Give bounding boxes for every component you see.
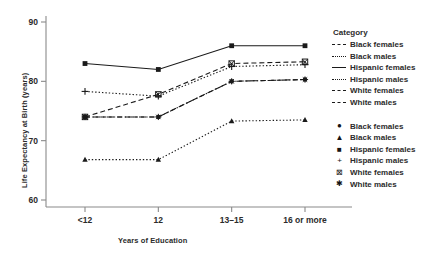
legend-marker-swatch-icon: ● — [332, 121, 347, 133]
legend-line-label: White males — [350, 97, 397, 109]
legend-line-swatch-icon — [332, 74, 347, 86]
tick-label-group: 60708090<121213–1516 or more — [29, 17, 327, 225]
series-black-females — [83, 77, 308, 119]
legend-line-label: Hispanic females — [350, 62, 415, 74]
legend-line-swatch-icon — [332, 39, 347, 51]
legend-marker-item[interactable]: ⊠White females — [332, 167, 433, 179]
legend-marker-label: Hispanic females — [350, 144, 415, 156]
legend-line-swatch-icon — [332, 97, 347, 109]
legend-marker-label: Hispanic males — [350, 155, 408, 167]
legend-line-label: Hispanic males — [350, 74, 408, 86]
series-black-males — [82, 117, 307, 162]
legend-marker-item[interactable]: ▲Black males — [332, 132, 433, 144]
legend-marker-label: Black males — [350, 132, 396, 144]
legend-line-label: Black males — [350, 51, 396, 63]
legend-line-item[interactable]: White females — [332, 85, 433, 97]
legend-line-swatch-icon — [332, 62, 347, 74]
legend-line-label: Black females — [350, 39, 403, 51]
legend-title: Category — [333, 28, 433, 37]
legend-marker-item[interactable]: ●Black females — [332, 121, 433, 133]
data-series-group — [82, 43, 309, 162]
y-tick-label: 80 — [29, 76, 39, 86]
series-white-males — [82, 76, 308, 120]
legend-line-item[interactable]: Hispanic males — [332, 74, 433, 86]
legend-line-item[interactable]: White males — [332, 97, 433, 109]
y-tick-label: 60 — [29, 195, 39, 205]
x-tick-label: 16 or more — [283, 215, 327, 225]
legend-marker-swatch-icon: ⊠ — [332, 167, 347, 179]
legend-line-styles: Black femalesBlack malesHispanic females… — [332, 39, 433, 109]
legend-marker-swatch-icon: ■ — [332, 144, 347, 156]
x-tick-label: <12 — [78, 215, 93, 225]
y-axis-title: Life Expectancy at Birth (years) — [20, 73, 29, 188]
legend-marker-item[interactable]: ■Hispanic females — [332, 144, 433, 156]
legend-marker-item[interactable]: +Hispanic males — [332, 155, 433, 167]
x-tick-label: 13–15 — [220, 215, 244, 225]
legend-marker-label: Black females — [350, 121, 403, 133]
legend-marker-swatch-icon: ✱ — [332, 179, 347, 191]
legend-marker-swatch-icon: ▲ — [332, 132, 347, 144]
legend-line-item[interactable]: Hispanic females — [332, 62, 433, 74]
life-expectancy-line-chart: Life Expectancy at Birth (years) Years o… — [0, 0, 433, 257]
legend-line-item[interactable]: Black females — [332, 39, 433, 51]
chart-legend: Category Black femalesBlack malesHispani… — [332, 28, 433, 190]
legend-marker-styles: ●Black females▲Black males■Hispanic fema… — [332, 121, 433, 191]
legend-line-item[interactable]: Black males — [332, 51, 433, 63]
y-tick-label: 90 — [29, 17, 39, 27]
y-tick-label: 70 — [29, 136, 39, 146]
legend-line-swatch-icon — [332, 85, 347, 97]
x-axis-title: Years of Education — [118, 236, 187, 245]
legend-marker-label: White males — [350, 179, 397, 191]
legend-marker-item[interactable]: ✱White males — [332, 179, 433, 191]
series-white-females — [82, 59, 307, 120]
x-tick-label: 12 — [154, 215, 164, 225]
legend-line-label: White females — [350, 85, 404, 97]
legend-line-swatch-icon — [332, 51, 347, 63]
series-hispanic-females — [83, 43, 308, 72]
legend-marker-swatch-icon: + — [332, 155, 347, 167]
legend-marker-label: White females — [350, 167, 404, 179]
